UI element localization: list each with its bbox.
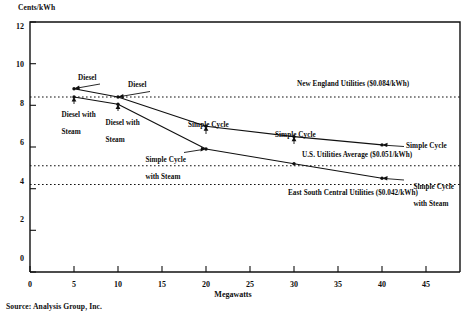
- reference-label-us-average: U.S. Utilities Average ($0.051/kWh): [302, 151, 412, 159]
- annotation-diesel-1: Diesel: [78, 74, 97, 82]
- annotation-line-2: with Steam: [145, 173, 180, 181]
- annotation-line-2: Steam: [61, 128, 80, 136]
- annotation-simple-cycle-2: Simple Cycle: [275, 131, 316, 139]
- annotation-line-1: Diesel with: [61, 111, 95, 119]
- annotation-simple-cycle-1: Simple Cycle: [188, 121, 229, 129]
- annotation-simple-cycle-3: Simple Cycle: [406, 142, 447, 150]
- annotation-line-1: Diesel with: [105, 119, 139, 127]
- annotation-line-2: Steam: [105, 136, 124, 144]
- annotation-line-1: Simple Cycle: [413, 183, 454, 191]
- x-tick-marks: [30, 266, 426, 272]
- chart-figure: Cents/kWh 12 10 8 6 4 2 0 0 5 10 15 20 2…: [0, 0, 466, 322]
- annotation-line-1: Simple Cycle: [145, 156, 186, 164]
- plot-frame: [30, 22, 460, 272]
- reference-label-east-south-central: East South Central Utilities ($0.042/kWh…: [288, 189, 418, 197]
- source-note: Source: Analysis Group, Inc.: [6, 302, 102, 311]
- annotation-diesel-2: Diesel: [128, 81, 147, 89]
- annotation-line-2: with Steam: [413, 200, 448, 208]
- y-tick-marks: [30, 22, 36, 272]
- chart-canvas: [0, 0, 466, 322]
- annotation-diesel-with-steam-2: Diesel with Steam: [98, 111, 140, 153]
- reference-label-new-england: New England Utilities ($0.084/kWh): [297, 80, 409, 88]
- annotation-diesel-with-steam-1: Diesel with Steam: [54, 103, 96, 145]
- annotation-simple-cycle-with-steam-1: Simple Cycle with Steam: [138, 148, 186, 190]
